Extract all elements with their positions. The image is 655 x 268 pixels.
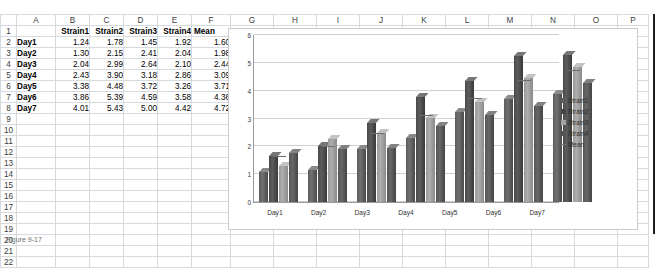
cell-D20[interactable] xyxy=(124,235,158,246)
cell-D13[interactable] xyxy=(124,158,158,169)
column-header-I[interactable]: I xyxy=(317,15,360,26)
cell-C16[interactable] xyxy=(90,191,124,202)
cell-N20[interactable] xyxy=(532,235,575,246)
row-header-12[interactable]: 12 xyxy=(1,147,17,158)
cell-A18[interactable] xyxy=(17,213,56,224)
cell-F13[interactable] xyxy=(192,158,231,169)
cell-G20[interactable] xyxy=(231,235,274,246)
cell-F21[interactable] xyxy=(192,246,231,257)
cell-A11[interactable] xyxy=(17,136,56,147)
bar-strain2-day4[interactable] xyxy=(416,93,425,202)
mean-marker-day4[interactable] xyxy=(420,115,433,116)
bar-strain4-day1[interactable] xyxy=(289,149,298,202)
bar-strain3-day5[interactable] xyxy=(475,98,484,202)
cell-E16[interactable] xyxy=(158,191,192,202)
cell-D14[interactable] xyxy=(124,169,158,180)
legend-item-strain1[interactable]: Strain1 xyxy=(561,95,631,106)
cell-A12[interactable] xyxy=(17,147,56,158)
bar-strain4-day2[interactable] xyxy=(338,145,347,202)
column-header-D[interactable]: D xyxy=(124,15,158,26)
cell-A14[interactable] xyxy=(17,169,56,180)
chart-legend[interactable]: Strain1Strain2Strain3Strain4Mean xyxy=(561,95,631,150)
cell-C3[interactable]: 2.15 xyxy=(90,48,124,59)
cell-D17[interactable] xyxy=(124,202,158,213)
bar-strain1-day1[interactable] xyxy=(259,168,268,203)
cell-P22[interactable] xyxy=(618,257,649,268)
cell-A5[interactable]: Day4 xyxy=(17,70,56,81)
cell-F16[interactable] xyxy=(192,191,231,202)
cell-E15[interactable] xyxy=(158,180,192,191)
cell-A15[interactable] xyxy=(17,180,56,191)
column-header-N[interactable]: N xyxy=(532,15,575,26)
cell-K22[interactable] xyxy=(403,257,446,268)
cell-B3[interactable]: 1.30 xyxy=(56,48,90,59)
cell-B19[interactable] xyxy=(56,224,90,235)
cell-C20[interactable] xyxy=(90,235,124,246)
cell-F9[interactable] xyxy=(192,114,231,125)
cell-H22[interactable] xyxy=(274,257,317,268)
cell-B15[interactable] xyxy=(56,180,90,191)
row-header-19[interactable]: 19 xyxy=(1,224,17,235)
column-header-L[interactable]: L xyxy=(446,15,489,26)
column-header-K[interactable]: K xyxy=(403,15,446,26)
cell-I21[interactable] xyxy=(317,246,360,257)
cell-A19[interactable] xyxy=(17,224,56,235)
column-header-E[interactable]: E xyxy=(158,15,192,26)
cell-B2[interactable]: 1.24 xyxy=(56,37,90,48)
bar-strain3-day1[interactable] xyxy=(279,162,288,202)
cell-A10[interactable] xyxy=(17,125,56,136)
bar-strain4-day6[interactable] xyxy=(534,102,543,202)
cell-F15[interactable] xyxy=(192,180,231,191)
cell-D8[interactable]: 5.00 xyxy=(124,103,158,114)
cell-G21[interactable] xyxy=(231,246,274,257)
cell-E6[interactable]: 3.26 xyxy=(158,81,192,92)
cell-B6[interactable]: 3.38 xyxy=(56,81,90,92)
cell-F18[interactable] xyxy=(192,213,231,224)
bar-strain2-day6[interactable] xyxy=(514,52,523,202)
cell-C2[interactable]: 1.78 xyxy=(90,37,124,48)
mean-marker-day7[interactable] xyxy=(567,70,580,71)
cell-A17[interactable] xyxy=(17,202,56,213)
cell-M20[interactable] xyxy=(489,235,532,246)
cell-D6[interactable]: 3.72 xyxy=(124,81,158,92)
table-row[interactable]: 20 xyxy=(1,235,649,246)
cell-A13[interactable] xyxy=(17,158,56,169)
cell-I20[interactable] xyxy=(317,235,360,246)
bar-strain3-day3[interactable] xyxy=(377,129,386,202)
cell-B8[interactable]: 4.01 xyxy=(56,103,90,114)
cell-C22[interactable] xyxy=(90,257,124,268)
cell-C5[interactable]: 3.90 xyxy=(90,70,124,81)
cell-F22[interactable] xyxy=(192,257,231,268)
cell-F12[interactable] xyxy=(192,147,231,158)
cell-E11[interactable] xyxy=(158,136,192,147)
cell-M21[interactable] xyxy=(489,246,532,257)
cell-B13[interactable] xyxy=(56,158,90,169)
cell-E10[interactable] xyxy=(158,125,192,136)
cell-J22[interactable] xyxy=(360,257,403,268)
cell-F10[interactable] xyxy=(192,125,231,136)
legend-item-strain4[interactable]: Strain4 xyxy=(561,128,631,139)
cell-F8[interactable]: 4.72 xyxy=(192,103,231,114)
cell-I22[interactable] xyxy=(317,257,360,268)
cell-E5[interactable]: 2.86 xyxy=(158,70,192,81)
cell-A4[interactable]: Day3 xyxy=(17,59,56,70)
row-header-14[interactable]: 14 xyxy=(1,169,17,180)
cell-H21[interactable] xyxy=(274,246,317,257)
row-header-21[interactable]: 21 xyxy=(1,246,17,257)
row-header-7[interactable]: 7 xyxy=(1,92,17,103)
column-header-B[interactable]: B xyxy=(56,15,90,26)
cell-G22[interactable] xyxy=(231,257,274,268)
cell-C8[interactable]: 5.43 xyxy=(90,103,124,114)
cell-C6[interactable]: 4.48 xyxy=(90,81,124,92)
bar-strain1-day6[interactable] xyxy=(504,95,513,202)
cell-F5[interactable]: 3.09 xyxy=(192,70,231,81)
column-header-A[interactable]: A xyxy=(17,15,56,26)
cell-F20[interactable] xyxy=(192,235,231,246)
cell-B20[interactable] xyxy=(56,235,90,246)
cell-E20[interactable] xyxy=(158,235,192,246)
row-header-8[interactable]: 8 xyxy=(1,103,17,114)
cell-F17[interactable] xyxy=(192,202,231,213)
cell-N21[interactable] xyxy=(532,246,575,257)
cell-M22[interactable] xyxy=(489,257,532,268)
cell-F19[interactable] xyxy=(192,224,231,235)
